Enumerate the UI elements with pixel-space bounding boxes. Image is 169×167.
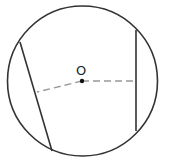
distance-to-left-chord xyxy=(37,81,82,92)
center-label: O xyxy=(76,63,86,78)
center-point xyxy=(80,79,84,83)
circle-chords-diagram: O xyxy=(0,0,169,167)
left-chord xyxy=(20,42,52,151)
